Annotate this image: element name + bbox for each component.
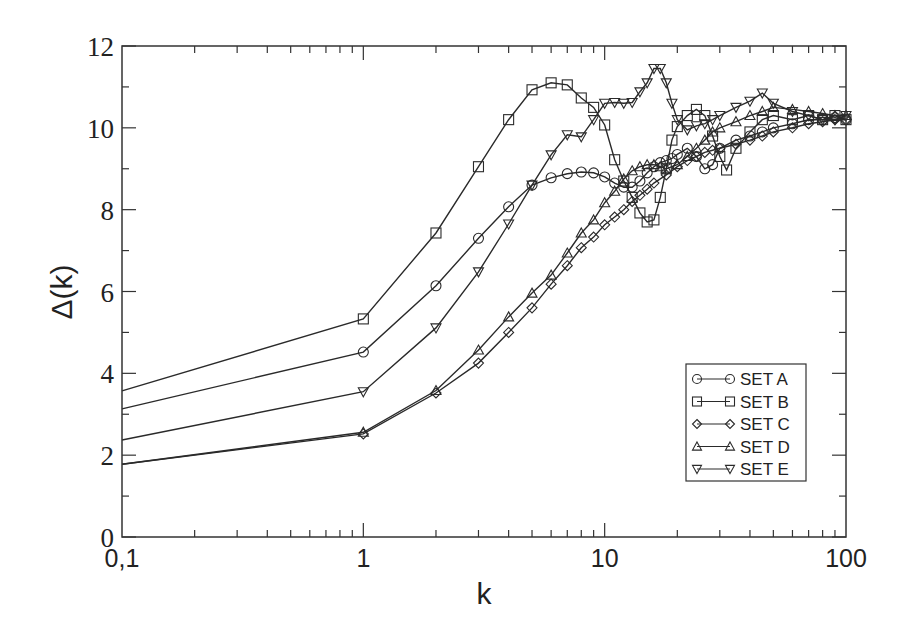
y-tick-label: 6 [101,278,115,308]
x-axis-ticks: 0,1110100 [105,46,867,572]
x-tick-label: 10 [591,544,619,572]
legend-label: SET D [740,438,790,457]
axes: 024681012 0,1110100 [87,32,867,572]
y-tick-label: 4 [101,359,115,389]
line-chart: 024681012 0,1110100 k Δ(k) SET ASET BSET… [0,0,907,634]
y-tick-label: 8 [101,196,115,226]
series-set-b [122,78,851,391]
y-tick-label: 12 [87,32,114,62]
x-tick-label: 0,1 [105,544,140,572]
legend-label: SET C [740,415,790,434]
x-axis-title: k [477,577,493,610]
legend: SET ASET BSET CSET DSET E [686,364,806,481]
y-tick-label: 2 [101,441,115,471]
legend-label: SET A [740,370,789,389]
legend-label: SET E [740,460,789,479]
y-tick-label: 10 [87,114,114,144]
x-tick-label: 100 [825,544,867,572]
legend-label: SET B [740,393,789,412]
x-tick-label: 1 [356,544,370,572]
y-axis-title: Δ(k) [45,264,78,319]
